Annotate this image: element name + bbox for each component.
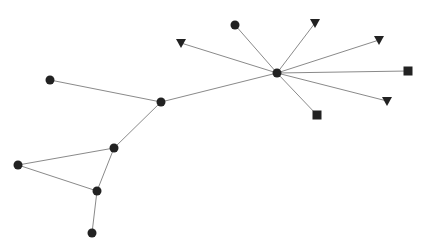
edge-hub-s2: [277, 73, 317, 115]
node-n3-circle: [110, 144, 119, 153]
node-t2-triangle: [176, 39, 186, 48]
node-t1-triangle: [310, 19, 320, 28]
edge-n1-n3: [114, 102, 161, 148]
node-t4-triangle: [382, 97, 392, 106]
node-c1-circle: [231, 21, 240, 30]
edge-hub-t2: [181, 43, 277, 73]
edge-hub-t4: [277, 73, 387, 101]
edge-n1-n2: [50, 80, 161, 102]
edge-n4-n5: [18, 165, 97, 191]
edge-hub-t1: [277, 23, 315, 73]
node-t3-triangle: [374, 36, 384, 45]
node-n1-circle: [157, 98, 166, 107]
node-n2-circle: [46, 76, 55, 85]
edge-hub-t3: [277, 40, 379, 73]
node-hub-circle: [273, 69, 282, 78]
node-s1-square: [404, 67, 413, 76]
edge-hub-n1: [161, 73, 277, 102]
edge-hub-s1: [277, 71, 408, 73]
node-n5-circle: [93, 187, 102, 196]
network-graph: [0, 0, 425, 247]
node-n6-circle: [88, 229, 97, 238]
edge-hub-c1: [235, 25, 277, 73]
edge-n3-n5: [97, 148, 114, 191]
node-s2-square: [313, 111, 322, 120]
edge-n5-n6: [92, 191, 97, 233]
edge-n3-n4: [18, 148, 114, 165]
node-n4-circle: [14, 161, 23, 170]
